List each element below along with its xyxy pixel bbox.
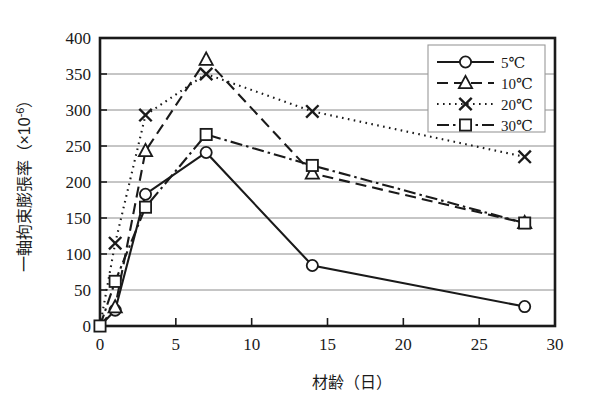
chart-figure: 051015202530 050100150200250300350400 材齢… bbox=[0, 0, 592, 415]
data-point-circle bbox=[140, 189, 151, 200]
y-tick-label: 300 bbox=[66, 101, 92, 120]
data-point-square bbox=[519, 217, 530, 228]
x-tick-label: 20 bbox=[395, 335, 412, 354]
x-tick-label: 0 bbox=[96, 335, 105, 354]
data-point-circle bbox=[519, 301, 530, 312]
y-tick-label: 350 bbox=[66, 65, 92, 84]
data-point-circle bbox=[460, 56, 471, 67]
x-tick-label: 10 bbox=[243, 335, 260, 354]
legend-label: 30℃ bbox=[501, 118, 533, 134]
expansion-rate-line-chart: 051015202530 050100150200250300350400 材齢… bbox=[0, 0, 592, 415]
data-point-circle bbox=[307, 260, 318, 271]
y-tick-label: 100 bbox=[66, 245, 92, 264]
x-tick-label: 25 bbox=[471, 335, 488, 354]
y-axis-title-unit: （×10 bbox=[16, 117, 33, 160]
data-point-square bbox=[94, 320, 105, 331]
data-point-square bbox=[201, 129, 212, 140]
x-tick-label: 5 bbox=[172, 335, 181, 354]
data-point-square bbox=[140, 202, 151, 213]
legend: 5℃10℃20℃30℃ bbox=[428, 45, 545, 134]
y-axis-title-main: 一軸拘束膨張率 bbox=[16, 160, 33, 272]
data-point-circle bbox=[201, 147, 212, 158]
y-tick-label: 50 bbox=[74, 281, 91, 300]
legend-label: 20℃ bbox=[501, 97, 533, 113]
y-tick-label: 0 bbox=[83, 317, 92, 336]
x-tick-label: 30 bbox=[547, 335, 564, 354]
y-axis-title: 一軸拘束膨張率（×10-6） bbox=[14, 92, 33, 273]
y-axis-title-close: ） bbox=[16, 92, 33, 108]
legend-label: 10℃ bbox=[501, 76, 533, 92]
y-tick-label: 250 bbox=[66, 137, 92, 156]
svg-text:一軸拘束膨張率（×10-6）: 一軸拘束膨張率（×10-6） bbox=[14, 92, 33, 273]
y-axis-title-exponent: -6 bbox=[14, 108, 26, 118]
y-tick-label: 150 bbox=[66, 209, 92, 228]
x-tick-label: 15 bbox=[319, 335, 336, 354]
y-tick-label: 400 bbox=[66, 29, 92, 48]
data-point-square bbox=[307, 160, 318, 171]
data-point-square bbox=[460, 119, 471, 130]
y-tick-label: 200 bbox=[66, 173, 92, 192]
legend-label: 5℃ bbox=[501, 55, 525, 71]
data-point-square bbox=[110, 276, 121, 287]
x-axis-title: 材齢（日） bbox=[312, 374, 392, 391]
